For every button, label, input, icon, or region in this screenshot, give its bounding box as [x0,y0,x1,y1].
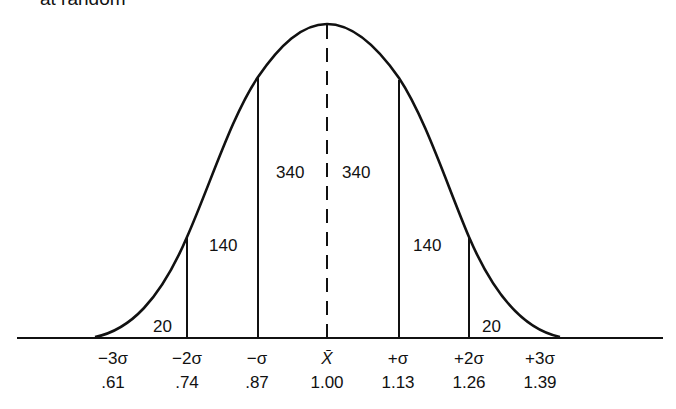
sigma-label: +3σ [525,349,555,368]
x-value-label: 1.39 [523,373,556,392]
mean-label: X̄ [320,349,333,368]
x-value-label: .74 [175,373,199,392]
x-value-label: .61 [101,373,125,392]
sigma-label: +σ [388,349,409,368]
sigma-label: +2σ [454,349,484,368]
x-value-label: .87 [245,373,269,392]
sigma-label: −2σ [172,349,202,368]
sigma-label: −3σ [98,349,128,368]
sigma-label: −σ [247,349,268,368]
x-value-label: 1.26 [452,373,485,392]
band-label: 340 [342,163,370,182]
normal-curve-chart: 20 140 340 340 140 20 −3σ −2σ −σ X̄ +σ +… [0,0,676,409]
band-label: 140 [209,236,237,255]
band-label: 20 [482,317,501,336]
band-label: 140 [413,236,441,255]
band-label: 340 [276,163,304,182]
x-value-label: 1.00 [310,373,343,392]
x-value-label: 1.13 [381,373,414,392]
band-label: 20 [153,317,172,336]
